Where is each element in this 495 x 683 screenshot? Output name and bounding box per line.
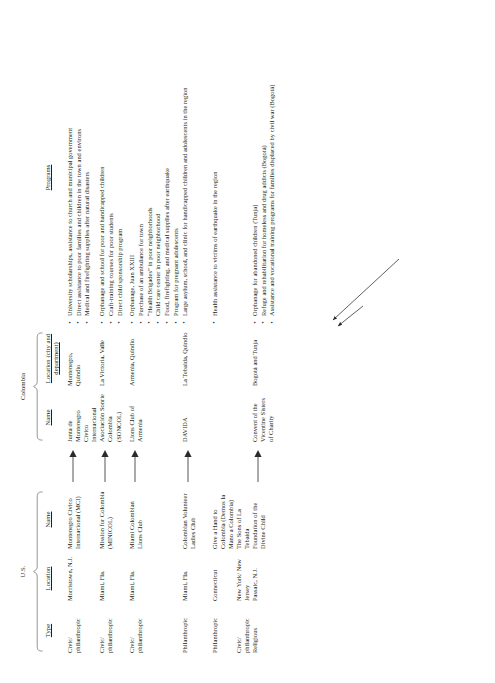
table-row: Civic/ philanthropicMorristown, N.J.Mont… [66,24,98,653]
program-item: Refuge and rehabilitation for homeless a… [260,31,268,324]
cell-us-location: Passaic, N.J. [251,549,281,601]
cell-colombia-name: Convent of the Vicentine Sisters of Char… [251,386,281,442]
right-arrow-icon [98,449,112,483]
document-sheet: U.S. Colombia [0,0,495,683]
col-header-type: Type [44,601,66,653]
program-item: Orphanage and school for poor and handic… [98,31,106,324]
link-arrow [98,449,128,483]
table-row: PhilanthropicConnecticutGive a Hand to C… [211,24,235,653]
cell-us-name: The Sons of La Tebaida [235,483,251,549]
link-arrow [251,449,281,483]
brace-programs-gap [33,24,44,324]
table-row: Civic/ philanthropicNew York/ New Jersey… [235,24,251,653]
col-header-us-location-label: Location [44,556,52,601]
cell-colombia-location [211,324,235,386]
program-item: Orphanage, Juan XXIII [128,31,136,324]
col-header-col-location: Location (city and department) [44,324,66,386]
table-head: U.S. Colombia [18,24,66,653]
cell-colombia-name: Junta de Montenegro Civico Internacional [66,386,98,442]
cell-type: Philanthropic [211,601,235,653]
table-row: Civic/ philanthropicMiami, Fla.Mission f… [98,24,128,653]
program-item: Large asylum, school, and clinic for han… [181,31,189,324]
cell-programs: Orphanage and school for poor and handic… [98,24,128,324]
program-item: Food, firefighting, and medical supplies… [163,31,171,324]
program-item: Craft-training courses for poor students [107,31,115,324]
programs-list: Health assistance to victims of earthqua… [211,31,219,324]
cell-programs: Health assistance to victims of earthqua… [211,24,235,324]
program-item: Medical and firefighting supplies after … [83,31,91,324]
group-header-row: U.S. Colombia [18,24,33,653]
brace-colombia [33,324,44,442]
table-row: Civic/ philanthropicMiami, Fla.Miami Col… [128,24,180,653]
program-item: Child care center in poor neighborhood [154,31,162,324]
cell-link-arrow [98,442,128,483]
col-header-programs: Programs [44,24,66,324]
cell-us-name: Mission for Colombia (MINICOL) [98,483,128,549]
group-header-us: U.S. [18,483,33,653]
cell-type: Philanthropic [181,601,211,653]
brace-us [33,483,44,653]
program-item: Orphanage for abandoned children (Tunja) [251,31,259,324]
group-header-colombia-label: Colombia [19,331,27,442]
right-arrow-icon [128,449,142,483]
group-header-us-label: U.S. [19,490,27,653]
programs-list: Orphanage and school for poor and handic… [98,31,124,324]
cell-colombia-name: Lions Club of Armenia [128,386,180,442]
programs-list: University scholarships, assistance to c… [66,31,92,324]
col-header-type-label: Type [44,608,52,653]
brace-colombia-icon [33,331,43,442]
cell-programs [235,24,251,324]
program-item: Direct assistance to poor families and c… [75,31,83,324]
program-item: “Health Brigades” in poor neighborhoods [146,31,154,324]
group-header-spacer [18,442,33,483]
cell-colombia-location: Armenia, Quindio [128,324,180,386]
cell-us-location: Miami, Fla. [128,549,180,601]
cell-us-location: New York/ New Jersey [235,549,251,601]
col-header-us-name-label: Name [44,490,52,549]
cell-link-arrow [235,442,251,483]
cell-programs: Orphanage for abandoned children (Tunja)… [251,24,281,324]
cell-type: Civic/ philanthropic [66,601,98,653]
cell-type: Civic/ philanthropic [128,601,180,653]
cell-programs: Orphanage, Juan XXIIIPurchase of an ambu… [128,24,180,324]
cell-us-name: Montenegro Civico Internacional (MCI) [66,483,98,549]
program-item: Purchase of an ambulance for town [137,31,145,324]
cell-colombia-name: DAVIDA [181,386,211,442]
col-header-us-name: Name [44,483,66,549]
brace-us-icon [33,490,43,653]
cell-link-arrow [128,442,180,483]
cell-colombia-location: Bogotá and Tunja [251,324,281,386]
cell-us-location: Miami, Fla. [181,549,211,601]
program-item: Program for pregnant adolescents [172,31,180,324]
cell-colombia-location: La Victoria, Valle [98,324,128,386]
col-header-programs-label: Programs [44,31,52,324]
cell-us-name: Colombian Volunteer Ladies Club [181,483,211,549]
cell-type: Civic/ philanthropic [235,601,251,653]
link-arrow [66,449,96,483]
right-arrow-icon [251,449,265,483]
link-arrow [181,449,211,483]
table-row: PhilanthropicMiami, Fla.Colombian Volunt… [181,24,211,653]
right-arrow-icon [181,449,195,483]
cell-type: Civic/ philanthropic [98,601,128,653]
col-header-col-location-label: Location (city and department) [44,331,60,386]
cell-us-name: Miami Colombian Lions Club [128,483,180,549]
cell-type: Religious [251,601,281,653]
table-row: ReligiousPassaic, N.J.Foundation of the … [251,24,281,653]
cell-programs: University scholarships, assistance to c… [66,24,98,324]
programs-list: Large asylum, school, and clinic for han… [181,31,189,324]
col-header-us-location: Location [44,549,66,601]
program-item: Assistance and vocational training progr… [268,31,276,324]
cell-colombia-location: Montenegro, Quindio [66,324,98,386]
program-item: Health assistance to victims of earthqua… [211,31,219,324]
table-body: Civic/ philanthropicMorristown, N.J.Mont… [66,24,281,653]
column-header-row: Type Location Name Name Location (city a… [44,24,66,653]
programs-list: Orphanage for abandoned children (Tunja)… [251,31,277,324]
cell-colombia-location [235,324,251,386]
link-arrow [128,449,158,483]
group-header-colombia: Colombia [18,324,33,442]
right-arrow-icon [66,449,80,483]
program-item: University scholarships, assistance to c… [66,31,74,324]
cell-colombia-name [211,386,235,442]
organizations-table: U.S. Colombia [18,24,281,653]
